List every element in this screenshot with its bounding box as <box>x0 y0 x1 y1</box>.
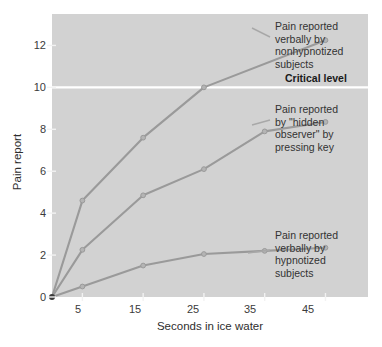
annotation-hypnotized-line-1: Pain reported <box>275 229 338 242</box>
x-axis-label: Seconds in ice water <box>52 320 368 332</box>
annotation-hidden-observer-line-1: Pain reported <box>275 103 338 116</box>
annotation-hidden-observer: Pain reported by "hidden observer" by pr… <box>275 103 338 153</box>
annotation-hypnotized-line-3: hypnotized <box>275 254 338 267</box>
annotation-nonhypnotized-line-1: Pain reported <box>275 20 343 33</box>
ytick-label-10: 10 <box>20 81 46 93</box>
critical-level-label: Critical level <box>285 72 347 84</box>
annotation-nonhypnotized-line-3: nonhypnotized <box>275 45 343 58</box>
y-axis-label: Pain report <box>11 127 23 197</box>
annotation-hidden-observer-line-3: observer" by <box>275 128 338 141</box>
ytick-label-6: 6 <box>20 165 46 177</box>
xtick-label-35: 35 <box>238 303 262 315</box>
annotation-hypnotized-line-2: verbally by <box>275 242 338 255</box>
ytick-label-0: 0 <box>20 291 46 303</box>
annotation-hidden-observer-line-2: by "hidden <box>275 116 338 129</box>
xtick-label-45: 45 <box>296 303 320 315</box>
annotation-nonhypnotized: Pain reported verbally by nonhypnotized … <box>275 20 343 70</box>
chart-figure: 0 2 4 6 8 10 12 5 15 25 35 45 Pain repor… <box>0 0 382 347</box>
ytick-label-8: 8 <box>20 123 46 135</box>
annotation-nonhypnotized-line-4: subjects <box>275 58 343 71</box>
xtick-label-15: 15 <box>123 303 147 315</box>
annotation-nonhypnotized-line-2: verbally by <box>275 33 343 46</box>
ytick-label-12: 12 <box>20 39 46 51</box>
xtick-label-25: 25 <box>181 303 205 315</box>
ytick-label-4: 4 <box>20 207 46 219</box>
annotation-hypnotized-line-4: subjects <box>275 267 338 280</box>
xtick-label-5: 5 <box>66 303 90 315</box>
annotation-hypnotized: Pain reported verbally by hypnotized sub… <box>275 229 338 279</box>
ytick-label-2: 2 <box>20 249 46 261</box>
annotation-hidden-observer-line-4: pressing key <box>275 141 338 154</box>
